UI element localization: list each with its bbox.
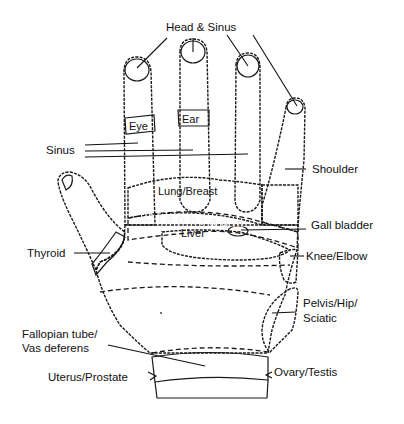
ovary-testis-label: Ovary/Testis <box>274 366 338 378</box>
pelvis-hip-sciatic-zone <box>262 288 298 352</box>
eye-label: Eye <box>129 120 148 132</box>
fallopian-label-line1: Fallopian tube/ <box>22 328 98 340</box>
thyroid-label: Thyroid <box>27 247 65 259</box>
fallopian-label-line2: Vas deferens <box>22 342 89 354</box>
head-sinus-label: Head & Sinus <box>166 21 237 33</box>
sinus-label: Sinus <box>46 144 75 156</box>
lung-breast-label: Lung/Breast <box>158 185 217 197</box>
uterus-prostate-label: Uterus/Prostate <box>48 371 128 383</box>
pelvis-label-line1: Pelvis/Hip/ <box>303 297 358 309</box>
pelvis-label-line2: Sciatic <box>303 312 337 324</box>
knee-elbow-label: Knee/Elbow <box>306 250 368 262</box>
shoulder-label: Shoulder <box>312 163 358 175</box>
index-fingertip <box>125 59 149 81</box>
ear-label: Ear <box>182 113 199 125</box>
palm-divider-lower <box>100 287 270 295</box>
thumbnail <box>62 175 72 190</box>
uterus-prostate-band <box>152 353 268 383</box>
gall-bladder-label: Gall bladder <box>311 219 373 231</box>
liver-label: Liver <box>181 227 205 239</box>
wrist-bottom <box>155 380 268 398</box>
palm-divider-upper <box>128 262 290 266</box>
leader-lines <box>74 35 306 380</box>
palm-dot <box>160 312 162 314</box>
hand-reflexology-diagram: Eye Ear Lung/Breast Diaphragm Liver Head… <box>0 0 404 424</box>
